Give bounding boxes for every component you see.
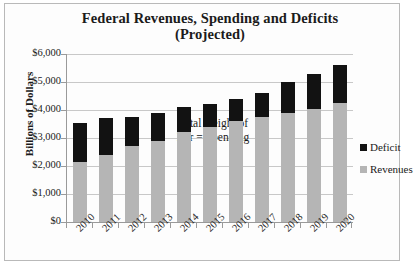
bar-segment-revenues[interactable]: [203, 127, 217, 222]
bar-segment-deficit[interactable]: [151, 113, 165, 141]
legend-label: Revenues: [370, 163, 413, 175]
bar-segment-deficit[interactable]: [73, 123, 87, 162]
bar-segment-revenues[interactable]: [125, 146, 139, 222]
x-axis-labels: 2010201120122013201420152016201720182019…: [66, 226, 366, 266]
legend-label: Deficit: [370, 141, 401, 153]
bar-segment-revenues[interactable]: [333, 103, 347, 222]
bar-column[interactable]: [307, 54, 321, 222]
legend-swatch: [360, 166, 367, 173]
y-tick-label: $3,000: [13, 131, 61, 142]
bar-segment-deficit[interactable]: [307, 74, 321, 109]
bar-column[interactable]: [125, 54, 139, 222]
bar-segment-revenues[interactable]: [255, 117, 269, 222]
y-tick-label: $6,000: [13, 47, 61, 58]
chart-title: Federal Revenues, Spending and Deficits …: [45, 10, 375, 42]
bar-column[interactable]: [177, 54, 191, 222]
legend-item[interactable]: Revenues: [360, 162, 412, 184]
bar-column[interactable]: [333, 54, 347, 222]
chart-frame: Federal Revenues, Spending and Deficits …: [4, 3, 400, 261]
legend-item[interactable]: Deficit: [360, 140, 412, 162]
bar-segment-revenues[interactable]: [307, 109, 321, 222]
bar-segment-revenues[interactable]: [281, 113, 295, 222]
bar-segment-deficit[interactable]: [99, 118, 113, 154]
bar-segment-revenues[interactable]: [99, 155, 113, 222]
bar-segment-deficit[interactable]: [281, 82, 295, 113]
bar-segment-deficit[interactable]: [125, 117, 139, 146]
bar-column[interactable]: [73, 54, 87, 222]
y-axis-ticks: $0$1,000$2,000$3,000$4,000$5,000$6,000: [13, 4, 61, 267]
y-tick-label: $5,000: [13, 75, 61, 86]
bar-segment-revenues[interactable]: [177, 132, 191, 222]
bar-segment-revenues[interactable]: [229, 121, 243, 222]
bar-segment-deficit[interactable]: [229, 99, 243, 121]
bar-segment-deficit[interactable]: [203, 104, 217, 126]
y-tick-label: $2,000: [13, 159, 61, 170]
bar-segment-deficit[interactable]: [333, 65, 347, 103]
chart-legend: DeficitRevenues: [360, 140, 412, 184]
chart-title-line-1: Federal Revenues, Spending and Deficits: [45, 10, 375, 26]
bar-group: [67, 54, 353, 222]
bar-column[interactable]: [203, 54, 217, 222]
bar-column[interactable]: [99, 54, 113, 222]
bar-segment-deficit[interactable]: [177, 107, 191, 132]
bar-column[interactable]: [281, 54, 295, 222]
y-tick-label: $4,000: [13, 103, 61, 114]
bar-segment-revenues[interactable]: [151, 141, 165, 222]
y-tick-label: $0: [13, 215, 61, 226]
bar-column[interactable]: [151, 54, 165, 222]
y-tick-label: $1,000: [13, 187, 61, 198]
bar-column[interactable]: [255, 54, 269, 222]
bar-segment-revenues[interactable]: [73, 162, 87, 222]
plot-area: Total Height of Bar = Spending: [66, 54, 353, 223]
bar-segment-deficit[interactable]: [255, 93, 269, 117]
legend-swatch: [360, 144, 367, 151]
chart-title-line-2: (Projected): [45, 26, 375, 42]
bar-column[interactable]: [229, 54, 243, 222]
